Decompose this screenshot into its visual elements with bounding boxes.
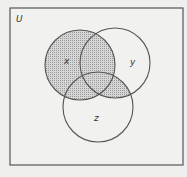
label-x: x bbox=[63, 56, 70, 66]
label-z: z bbox=[93, 113, 99, 123]
label-y: y bbox=[129, 57, 136, 67]
venn-diagram: U x y z bbox=[0, 0, 187, 177]
universe-label: U bbox=[16, 14, 23, 24]
